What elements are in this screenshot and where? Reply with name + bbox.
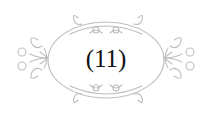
ornament-label: (11) — [0, 0, 212, 115]
